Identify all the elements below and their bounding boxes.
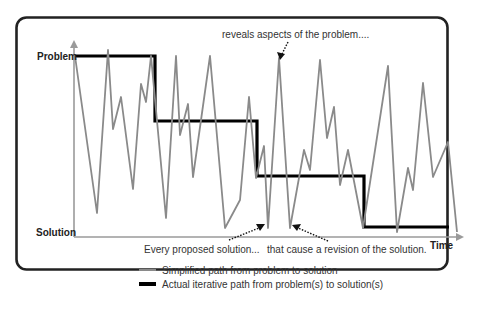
legend-label: Actual iterative path from problem(s) to… [162,279,383,290]
y-label-problem: Problem [37,52,77,62]
annotation-arrow-bottom-right [292,224,328,241]
x-label-time: Time [430,241,453,251]
simplified-path [75,50,457,232]
legend-label: Simplified path from problem to solution [162,265,338,276]
arrowhead-icon [256,224,265,231]
annotation-bottom-left: Every proposed solution... [144,245,260,255]
legend-item-actual: Actual iterative path from problem(s) to… [139,278,383,290]
legend-swatch-gray [139,269,156,271]
arrowhead-icon [292,224,301,231]
y-axis-arrow-icon [70,40,78,48]
y-label-solution: Solution [36,228,76,238]
annotation-top: reveals aspects of the problem.... [222,30,369,40]
x-axis-arrow-icon [456,233,464,241]
legend-swatch-black [139,282,156,286]
legend-item-simplified: Simplified path from problem to solution [139,264,338,276]
annotation-bottom-right: that cause a revision of the solution. [267,245,427,255]
